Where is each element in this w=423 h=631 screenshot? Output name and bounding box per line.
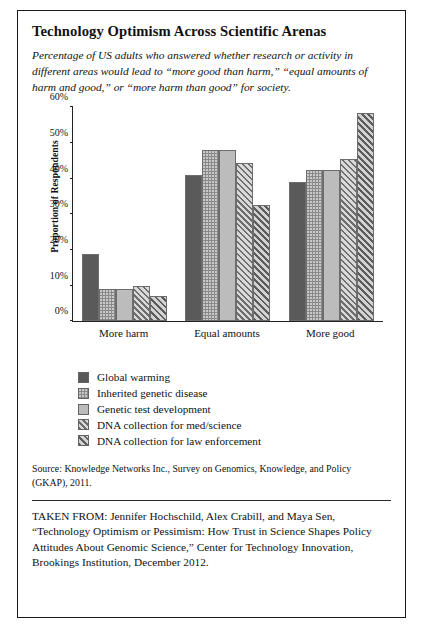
bar-group xyxy=(82,107,167,321)
y-axis-tick-label: 20% xyxy=(50,235,68,245)
bar[interactable] xyxy=(323,170,340,322)
bar[interactable] xyxy=(236,163,253,322)
plot-area: 0%10%20%30%40%50%60% xyxy=(72,107,383,322)
bar[interactable] xyxy=(219,150,236,321)
bar[interactable] xyxy=(150,296,167,321)
bar-chart: Proportion of Respondents 0%10%20%30%40%… xyxy=(32,99,392,349)
legend-swatch-icon xyxy=(78,388,89,399)
page-title: Technology Optimism Across Scientific Ar… xyxy=(32,23,391,40)
legend-label: Genetic test development xyxy=(97,403,211,415)
bar[interactable] xyxy=(357,113,374,322)
legend-label: DNA collection for med/science xyxy=(97,419,241,431)
y-axis-tick-label: 0% xyxy=(55,306,68,316)
bar[interactable] xyxy=(306,170,323,322)
bar-group xyxy=(185,107,270,321)
bar[interactable] xyxy=(185,175,202,321)
bar[interactable] xyxy=(133,286,150,321)
legend-swatch-icon xyxy=(78,404,89,415)
section-divider xyxy=(32,500,391,501)
legend-swatch-icon xyxy=(78,435,89,446)
bar[interactable] xyxy=(116,289,133,321)
y-axis-tick-label: 50% xyxy=(50,128,68,138)
bar[interactable] xyxy=(202,150,219,321)
legend-item[interactable]: Inherited genetic disease xyxy=(78,387,391,399)
legend-label: DNA collection for law enforcement xyxy=(97,435,261,447)
x-axis-category-label: More good xyxy=(279,327,382,339)
bar[interactable] xyxy=(82,254,99,322)
bar[interactable] xyxy=(253,205,270,321)
legend-item[interactable]: DNA collection for med/science xyxy=(78,419,391,431)
legend-item[interactable]: Global warming xyxy=(78,371,391,383)
figure-subtitle: Percentage of US adults who answered whe… xyxy=(32,47,389,96)
x-axis-category-labels: More harmEqual amountsMore good xyxy=(72,327,382,339)
y-axis-tick-label: 60% xyxy=(50,92,68,102)
legend-label: Inherited genetic disease xyxy=(97,387,208,399)
x-axis-category-label: Equal amounts xyxy=(175,327,278,339)
bar[interactable] xyxy=(340,159,357,321)
legend-item[interactable]: DNA collection for law enforcement xyxy=(78,435,391,447)
legend-swatch-icon xyxy=(78,419,89,430)
source-note: Source: Knowledge Networks Inc., Survey … xyxy=(32,462,391,490)
bar-group xyxy=(289,107,374,321)
bar[interactable] xyxy=(99,289,116,321)
legend-swatch-icon xyxy=(78,372,89,383)
x-axis-category-label: More harm xyxy=(72,327,175,339)
legend-item[interactable]: Genetic test development xyxy=(78,403,391,415)
chart-legend: Global warmingInherited genetic diseaseG… xyxy=(78,371,391,447)
plot-wrapper: 0%10%20%30%40%50%60% xyxy=(72,107,382,321)
bar[interactable] xyxy=(289,182,306,321)
figure-frame: Technology Optimism Across Scientific Ar… xyxy=(17,10,406,618)
y-axis-tick-label: 30% xyxy=(50,199,68,209)
y-axis-tick-label: 10% xyxy=(50,271,68,281)
bar-groups xyxy=(73,107,383,321)
legend-label: Global warming xyxy=(97,371,170,383)
y-axis-tick-label: 40% xyxy=(50,164,68,174)
taken-from-note: TAKEN FROM: Jennifer Hochschild, Alex Cr… xyxy=(32,509,391,571)
